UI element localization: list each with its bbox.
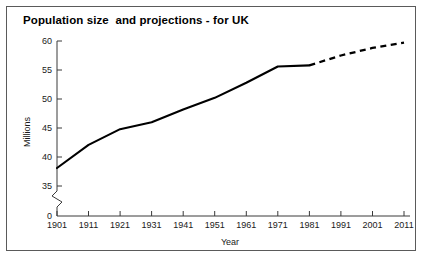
y-tick-label-45: 45 xyxy=(42,123,52,133)
x-tick-label-1911: 1911 xyxy=(79,220,98,230)
x-axis-title: Year xyxy=(221,237,239,247)
y-axis-title: Millions xyxy=(22,117,32,148)
x-tick-label-2001: 2001 xyxy=(362,220,382,230)
y-tick-label-50: 50 xyxy=(42,94,52,104)
y-tick-label-60: 60 xyxy=(42,36,52,46)
x-tick-label-1921: 1921 xyxy=(110,220,130,230)
y-tick-label-40: 40 xyxy=(42,152,52,162)
x-tick-label-1951: 1951 xyxy=(205,220,225,230)
x-tick-label-1981: 1981 xyxy=(299,220,319,230)
x-tick-label-2011: 2011 xyxy=(394,220,413,230)
x-tick-label-1991: 1991 xyxy=(331,220,351,230)
y-tick-label-35: 35 xyxy=(42,181,52,191)
y-axis-break-icon xyxy=(52,191,62,207)
x-tick-label-1941: 1941 xyxy=(173,220,193,230)
x-tick-label-1901: 1901 xyxy=(47,220,67,230)
x-tick-label-1931: 1931 xyxy=(142,220,162,230)
line-chart-plot: 60 55 50 45 40 35 0 Millions 1901 1911 1… xyxy=(0,0,425,263)
population-line-solid xyxy=(57,65,309,168)
y-tick-label-55: 55 xyxy=(42,65,52,75)
x-tick-label-1971: 1971 xyxy=(268,220,288,230)
x-tick-label-1961: 1961 xyxy=(236,220,256,230)
population-line-projection-dashed xyxy=(309,43,404,66)
chart-figure: Population size and projections - for UK… xyxy=(0,0,425,263)
